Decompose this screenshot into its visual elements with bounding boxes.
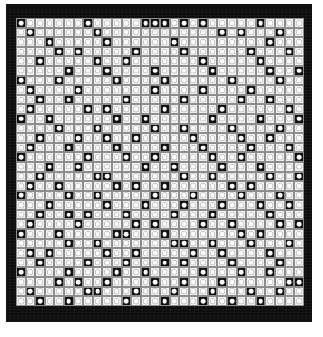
matrix-cell-dark [64,66,74,76]
matrix-cell-light [102,18,112,28]
matrix-cell-dark [294,172,304,182]
matrix-cell-light [16,143,26,153]
matrix-cell-dark [122,56,132,66]
matrix-cell-dark [189,133,199,143]
cell-dot-icon [268,40,273,45]
cell-dot-icon [143,193,148,198]
matrix-cell-light [217,56,227,66]
matrix-cell-light [45,239,55,249]
matrix-cell-light [227,114,237,124]
matrix-cell-dark [179,239,189,249]
cell-dot-icon [249,68,254,73]
cell-dot-icon [230,97,235,102]
matrix-cell-light [141,210,151,220]
matrix-cell-light [160,277,170,287]
matrix-cell-dark [160,104,170,114]
matrix-cell-light [265,104,275,114]
matrix-cell-dark [198,85,208,95]
matrix-cell-dark [54,76,64,86]
cell-dot-icon [124,212,129,217]
cell-dot-icon [220,193,225,198]
matrix-cell-light [45,66,55,76]
cell-dot-icon [162,126,167,131]
matrix-cell-light [112,37,122,47]
matrix-cell-light [285,172,295,182]
matrix-cell-light [285,191,295,201]
matrix-cell-light [54,114,64,124]
matrix-cell-dark [160,18,170,28]
cell-dot-icon [210,270,215,275]
matrix-cell-light [170,191,180,201]
matrix-cell-light [131,76,141,86]
cell-dot-icon [287,59,292,64]
matrix-cell-light [275,152,285,162]
cell-dot-icon [297,107,302,112]
cell-dot-icon [76,126,81,131]
matrix-cell-light [35,37,45,47]
matrix-cell-light [83,95,93,105]
cell-dot-icon [297,232,302,237]
cell-dot-icon [28,241,33,246]
matrix-cell-dark [150,277,160,287]
cell-dot-icon [230,78,235,83]
cell-dot-icon [134,136,139,141]
matrix-cell-dark [83,287,93,297]
cell-dot-icon [210,49,215,54]
matrix-cell-light [26,210,36,220]
matrix-cell-light [64,56,74,66]
matrix-cell-dark [150,18,160,28]
matrix-cell-light [83,76,93,86]
cell-dot-icon [201,299,206,304]
cell-dot-icon [105,289,110,294]
cell-dot-icon [66,116,71,121]
cell-dot-icon [297,126,302,131]
matrix-cell-dark [54,47,64,57]
matrix-cell-dark [160,181,170,191]
matrix-cell-dark [122,152,132,162]
matrix-cell-light [131,210,141,220]
matrix-cell-dark [83,210,93,220]
matrix-cell-light [16,66,26,76]
cell-dot-icon [28,193,33,198]
matrix-cell-light [208,277,218,287]
cell-dot-icon [201,203,206,208]
cell-dot-icon [230,193,235,198]
cell-dot-icon [76,116,81,121]
matrix-cell-dark [265,66,275,76]
cell-dot-icon [201,88,206,93]
cell-dot-icon [249,97,254,102]
matrix-cell-dark [294,277,304,287]
cell-dot-icon [230,164,235,169]
cell-dot-icon [172,136,177,141]
matrix-cell-light [256,143,266,153]
matrix-cell-light [102,229,112,239]
cell-dot-icon [18,241,23,246]
cell-dot-icon [297,78,302,83]
matrix-cell-light [141,277,151,287]
matrix-cell-light [74,143,84,153]
cell-dot-icon [230,241,235,246]
matrix-cell-light [54,172,64,182]
matrix-cell-light [131,114,141,124]
cell-dot-icon [172,116,177,121]
cell-dot-icon [249,126,254,131]
matrix-cell-dark [275,191,285,201]
cell-dot-icon [66,59,71,64]
cell-dot-icon [153,232,158,237]
matrix-cell-light [170,172,180,182]
cell-dot-icon [105,59,110,64]
matrix-cell-dark [237,191,247,201]
matrix-cell-light [227,95,237,105]
cell-dot-icon [114,164,119,169]
cell-dot-icon [124,184,129,189]
cell-dot-icon [18,68,23,73]
matrix-cell-dark [26,181,36,191]
matrix-cell-dark [16,191,26,201]
matrix-cell-light [237,162,247,172]
matrix-cell-light [285,114,295,124]
matrix-cell-light [294,191,304,201]
cell-dot-icon [210,299,215,304]
matrix-cell-light [265,28,275,38]
matrix-cell-light [189,104,199,114]
matrix-cell-light [35,162,45,172]
